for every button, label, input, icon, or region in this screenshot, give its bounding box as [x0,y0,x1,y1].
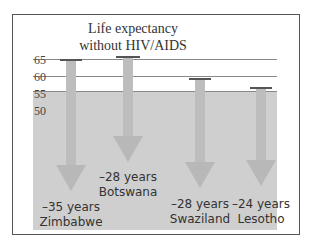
y-tick-55: 55 [34,87,46,102]
chart-title: Life expectancy without HIV/AIDS [73,20,193,54]
shaft-swaziland [195,80,205,162]
title-line-1: Life expectancy [73,20,193,37]
country-zimbabwe: Zimbabwe [31,215,111,230]
country-lesotho: Lesotho [221,212,301,227]
chart-frame: Life expectancy without HIV/AIDS 65 60 5… [12,14,300,235]
arrowhead-lesotho [246,160,276,186]
label-zimbabwe: –35 years Zimbabwe [31,200,111,230]
country-botswana: Botswana [88,185,168,200]
shaft-zimbabwe [66,61,76,165]
y-tick-65: 65 [34,53,46,68]
arrowhead-swaziland [185,162,215,188]
change-botswana: –28 years [88,170,168,185]
y-tick-60: 60 [34,70,46,85]
y-tick-50: 50 [34,104,46,119]
arrowhead-zimbabwe [56,165,86,191]
shaft-botswana [123,58,133,136]
label-lesotho: –24 years Lesotho [221,197,301,227]
arrowhead-botswana [113,136,143,162]
title-line-2: without HIV/AIDS [73,37,193,54]
change-lesotho: –24 years [221,197,301,212]
shaft-lesotho [256,89,266,160]
label-botswana: –28 years Botswana [88,170,168,200]
change-zimbabwe: –35 years [31,200,111,215]
